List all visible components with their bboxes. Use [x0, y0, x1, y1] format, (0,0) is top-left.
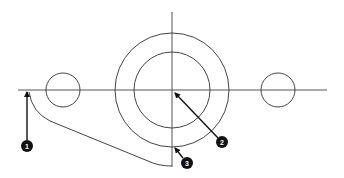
callout-3[interactable]: 3	[175, 148, 193, 169]
sketch-diagram: 1 2 3	[0, 0, 344, 178]
callout-1-label: 1	[25, 143, 29, 150]
callout-2-label: 2	[220, 139, 224, 146]
callout-2-leader-arrow	[175, 93, 218, 138]
callout-3-label: 3	[185, 160, 189, 167]
callout-3-leader-arrow	[175, 148, 183, 158]
profile-curve	[29, 92, 172, 166]
